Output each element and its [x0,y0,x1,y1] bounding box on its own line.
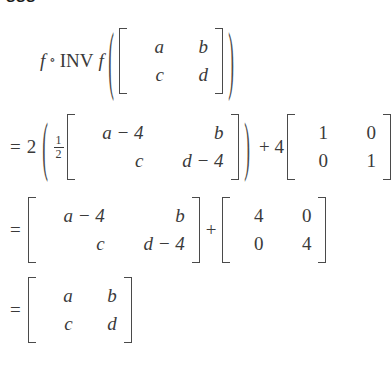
right-square-bracket-icon [192,197,200,264]
matrix-row: a b [134,33,208,61]
matrix-row: 4 0 [237,202,311,230]
matrix-cell: 1 [302,119,328,147]
matrix-cell: 4 [285,230,311,258]
matrix-cell: 0 [237,230,263,258]
equals-sign: = [10,219,21,241]
left-square-bracket-icon [287,114,295,181]
right-square-bracket-icon [124,277,132,344]
matrix-row: a b [43,282,117,310]
matrix-cell: c [82,147,144,175]
open-paren-icon: ( [108,17,114,105]
matrix-body: a b c d [36,277,124,344]
matrix-abcd-line1: a b c d [119,28,223,95]
matrix-row: c d − 4 [82,147,224,175]
matrix-abcd-line4: a b c d [28,277,132,344]
matrix-cell: d − 4 [162,147,224,175]
right-square-bracket-icon [215,28,223,95]
matrix-cell: a [134,33,164,61]
fraction-one-half: 1 2 [54,134,64,161]
plus-sign: + [206,219,217,241]
matrix-cell: 1 [350,147,376,175]
equation-line-1: f ∘ INV f ( a b c d ) [0,18,392,104]
matrix-row: c d − 4 [43,230,185,258]
right-square-bracket-icon [383,114,391,181]
matrix-cell: d − 4 [123,230,185,258]
close-paren-icon: ) [244,109,250,185]
equation-line-4: = a b c d [0,270,392,350]
matrix-body: 1 0 0 1 [295,114,383,181]
matrix-row: 0 1 [302,147,376,175]
open-paren-icon: ( [43,109,49,185]
left-square-bracket-icon [67,114,75,181]
matrix-cell: c [134,61,164,89]
matrix-body: a b c d [127,28,215,95]
matrix-identity-line2: 1 0 0 1 [287,114,391,181]
equation-line-2: = 2 ( 1 2 a − 4 b c d − 4 ) + 4 [0,104,392,190]
left-square-bracket-icon [222,197,230,264]
equation-line-3: = a − 4 b c d − 4 + 4 0 [0,190,392,270]
matrix-cell: 4 [237,202,263,230]
equals-sign: = [10,299,21,321]
matrix-row: c d [43,310,117,338]
fraction-numerator: 1 [54,134,64,147]
matrix-a-minus-4-line3: a − 4 b c d − 4 [28,197,200,264]
cropped-header-text: sss [6,0,36,5]
matrix-cell: b [87,282,117,310]
matrix-a-minus-4-line2: a − 4 b c d − 4 [67,114,239,181]
plus-sign: + [259,136,270,158]
operator-name-inv: INV [60,50,94,72]
composition-ring-icon: ∘ [49,52,55,68]
matrix-cell: b [162,119,224,147]
matrix-cell: b [178,33,208,61]
matrix-4i-line3: 4 0 0 4 [222,197,326,264]
matrix-cell: c [43,310,73,338]
matrix-cell: 0 [302,147,328,175]
matrix-row: 1 0 [302,119,376,147]
matrix-cell: c [43,230,105,258]
matrix-body: a − 4 b c d − 4 [36,197,192,264]
matrix-row: a − 4 b [82,119,224,147]
matrix-cell: b [123,202,185,230]
left-square-bracket-icon [28,197,36,264]
left-square-bracket-icon [119,28,127,95]
fraction-denominator: 2 [54,147,64,161]
matrix-row: a − 4 b [43,202,185,230]
matrix-cell: a − 4 [82,119,144,147]
matrix-cell: 0 [285,202,311,230]
scalar-coefficient-2: 2 [27,136,37,158]
math-derivation: f ∘ INV f ( a b c d ) = 2 ( [0,18,392,350]
matrix-row: 0 4 [237,230,311,258]
equals-sign: = [10,136,21,158]
matrix-cell: 0 [350,119,376,147]
right-square-bracket-icon [318,197,326,264]
matrix-cell: d [87,310,117,338]
function-symbol-f-inner: f [98,50,103,72]
matrix-body: 4 0 0 4 [230,197,318,264]
right-square-bracket-icon [231,114,239,181]
matrix-cell: d [178,61,208,89]
matrix-row: c d [134,61,208,89]
scalar-coefficient-4: 4 [275,136,285,158]
matrix-cell: a [43,282,73,310]
matrix-cell: a − 4 [43,202,105,230]
close-paren-icon: ) [228,17,234,105]
left-square-bracket-icon [28,277,36,344]
matrix-body: a − 4 b c d − 4 [75,114,231,181]
function-symbol-f-outer: f [40,50,45,72]
